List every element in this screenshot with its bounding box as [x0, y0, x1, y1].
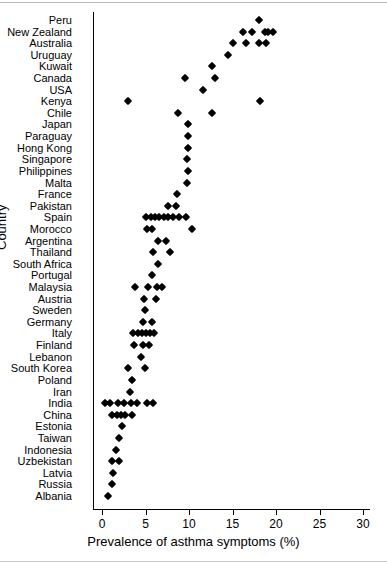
data-point: [127, 410, 135, 418]
data-point: [173, 190, 181, 198]
category-label: Finland: [36, 340, 72, 351]
data-point: [106, 399, 114, 407]
category-label: Singapore: [22, 154, 72, 165]
x-tick-label: 15: [218, 517, 248, 531]
data-point: [148, 225, 156, 233]
data-point: [182, 213, 190, 221]
category-label: USA: [49, 85, 72, 96]
x-tick: [102, 510, 103, 515]
category-label: France: [38, 189, 72, 200]
data-point: [153, 260, 161, 268]
data-point: [140, 294, 148, 302]
category-label: Poland: [38, 375, 72, 386]
data-point: [173, 109, 181, 117]
data-point: [149, 248, 157, 256]
category-label: Pakistan: [30, 201, 72, 212]
data-point: [184, 120, 192, 128]
category-label: Chile: [47, 108, 72, 119]
data-point: [239, 27, 247, 35]
category-label: India: [48, 398, 72, 409]
data-point: [184, 132, 192, 140]
x-tick-label: 30: [348, 517, 378, 531]
data-point: [118, 422, 126, 430]
category-label: Estonia: [35, 421, 72, 432]
data-point: [199, 85, 207, 93]
category-label: Spain: [44, 212, 72, 223]
x-tick-label: 20: [261, 517, 291, 531]
data-point: [150, 329, 158, 337]
data-point: [166, 248, 174, 256]
data-point: [180, 74, 188, 82]
data-point: [207, 109, 215, 117]
category-label: Lebanon: [29, 352, 72, 363]
x-tick: [189, 510, 190, 515]
x-tick: [146, 510, 147, 515]
data-point: [145, 341, 153, 349]
category-label: Latvia: [43, 468, 72, 479]
data-point: [183, 155, 191, 163]
data-point: [158, 283, 166, 291]
data-point: [139, 318, 147, 326]
data-point: [262, 39, 270, 47]
data-point: [184, 167, 192, 175]
category-label: Peru: [49, 15, 72, 26]
x-axis-line: [93, 509, 370, 510]
x-tick: [276, 510, 277, 515]
data-point: [162, 236, 170, 244]
category-label: Indonesia: [24, 445, 72, 456]
category-label: Iran: [53, 387, 72, 398]
x-tick-label: 0: [87, 517, 117, 531]
asthma-prevalence-figure: 051015202530 PeruNew ZealandAustraliaUru…: [0, 0, 387, 563]
category-label: South Korea: [11, 363, 72, 374]
data-point: [137, 352, 145, 360]
category-label: China: [43, 410, 72, 421]
data-point: [256, 97, 264, 105]
data-point: [247, 27, 255, 35]
category-label: Austria: [38, 294, 72, 305]
category-label: Italy: [52, 328, 72, 339]
y-axis-line: [93, 12, 94, 510]
category-label: Morocco: [30, 224, 72, 235]
category-label: Malaysia: [29, 282, 72, 293]
category-label: South Africa: [13, 259, 72, 270]
category-label: Malta: [45, 178, 72, 189]
category-label: Germany: [27, 317, 72, 328]
x-tick-label: 5: [131, 517, 161, 531]
data-point: [224, 51, 232, 59]
x-tick-label: 25: [305, 517, 335, 531]
figure-top-divider: [0, 2, 387, 3]
data-point: [229, 39, 237, 47]
data-point: [184, 143, 192, 151]
category-label: Kenya: [41, 96, 72, 107]
data-point: [152, 294, 160, 302]
x-tick-label: 10: [174, 517, 204, 531]
category-label: Sweden: [32, 305, 72, 316]
data-point: [108, 480, 116, 488]
data-point: [241, 39, 249, 47]
category-label: Albania: [35, 491, 72, 502]
data-point: [148, 318, 156, 326]
category-label: Canada: [33, 73, 72, 84]
data-point: [144, 283, 152, 291]
data-point: [183, 178, 191, 186]
data-point: [124, 364, 132, 372]
category-label: Russia: [38, 479, 72, 490]
y-axis-label: Country: [0, 204, 9, 250]
data-point: [172, 202, 180, 210]
category-label: Thailand: [30, 247, 72, 258]
data-point: [207, 62, 215, 70]
data-point: [153, 236, 161, 244]
data-point: [127, 376, 135, 384]
category-label: Portugal: [31, 270, 72, 281]
scatter-plot-area: 051015202530 PeruNew ZealandAustraliaUru…: [93, 12, 370, 510]
data-point: [109, 469, 117, 477]
data-point: [211, 74, 219, 82]
data-point: [115, 457, 123, 465]
category-label: New Zealand: [7, 27, 72, 38]
data-point: [148, 271, 156, 279]
data-point: [124, 97, 132, 105]
data-point: [140, 364, 148, 372]
data-point: [112, 445, 120, 453]
category-label: Taiwan: [38, 433, 72, 444]
category-label: Uzbekistan: [18, 456, 72, 467]
